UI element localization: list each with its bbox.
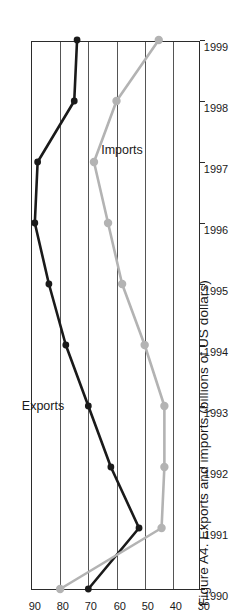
year-tick-1992: 1992 [204,468,228,480]
datapoint-imports-1995 [118,280,126,288]
datapoint-imports-1996 [104,219,112,227]
datapoint-exports-1993 [85,403,92,410]
series-line-exports [35,40,139,589]
value-tick-60: 60 [106,600,126,612]
datapoint-imports-1997 [90,158,98,166]
rotated-figure: Figure A4. Exports and imports (billions… [0,0,234,612]
datapoint-imports-1993 [160,402,168,410]
datapoint-exports-1998 [71,98,78,105]
series-label-imports: Imports [101,143,143,157]
year-tickmark-1993 [200,406,205,407]
datapoint-exports-1990 [85,586,92,593]
year-axis-labels: 1990199119921993199419951996199719981999 [202,41,228,590]
year-tickmark-1996 [200,223,205,224]
year-tick-1991: 1991 [204,529,228,541]
year-tickmark-1990 [200,589,205,590]
value-tick-70: 70 [77,600,97,612]
year-tick-1997: 1997 [204,163,228,175]
year-tick-1993: 1993 [204,407,228,419]
year-tickmark-1999 [200,40,205,41]
datapoint-imports-1992 [160,463,168,471]
year-tick-1998: 1998 [204,102,228,114]
datapoint-exports-1994 [62,342,69,349]
datapoint-exports-1999 [74,37,81,44]
series-line-imports [60,40,164,589]
datapoint-imports-1990 [56,585,64,593]
year-tick-1996: 1996 [204,224,228,236]
year-tick-1994: 1994 [204,346,228,358]
year-tick-1999: 1999 [204,41,228,53]
year-tick-1995: 1995 [204,285,228,297]
value-tick-50: 50 [134,600,154,612]
year-tickmark-1995 [200,284,205,285]
datapoint-exports-1995 [46,281,53,288]
datapoint-exports-1992 [107,464,114,471]
year-tickmark-1992 [200,467,205,468]
year-tick-1990: 1990 [204,590,228,602]
datapoint-imports-1999 [155,36,163,44]
datapoint-imports-1994 [140,341,148,349]
year-tickmark-1991 [200,528,205,529]
year-tickmark-1994 [200,345,205,346]
series-layer [32,40,201,589]
datapoint-exports-1997 [34,159,41,166]
datapoint-exports-1996 [31,220,38,227]
datapoint-exports-1991 [136,525,143,532]
plot-area: Exports Imports [31,41,200,590]
datapoint-imports-1998 [112,97,120,105]
datapoint-imports-1991 [157,524,165,532]
value-tick-90: 90 [21,600,41,612]
value-tick-80: 80 [49,600,69,612]
year-tickmark-1998 [200,101,205,102]
year-tickmark-1997 [200,162,205,163]
value-tick-40: 40 [162,600,182,612]
series-label-exports: Exports [22,399,64,413]
